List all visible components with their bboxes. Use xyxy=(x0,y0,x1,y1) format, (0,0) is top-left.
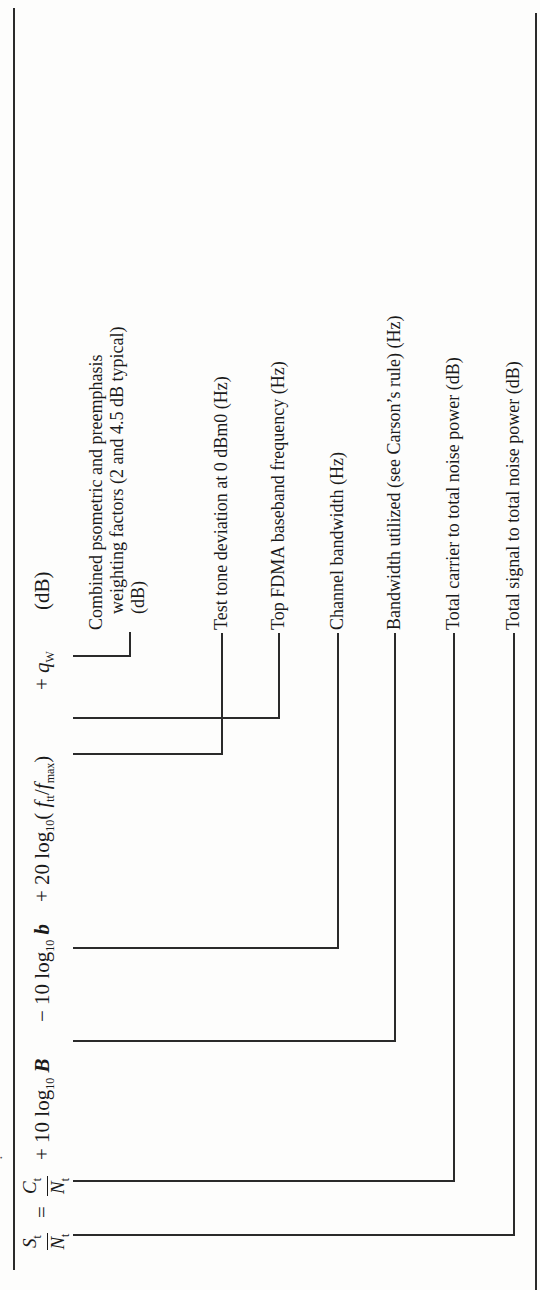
label-signal-to-noise: Total signal to total noise power (dB) xyxy=(503,361,524,630)
connector-carrier-noise-h xyxy=(453,633,455,1182)
connector-test-tone-v xyxy=(73,754,223,756)
connector-top-fdma-v xyxy=(73,718,280,720)
lhs-fraction: St Nt xyxy=(20,1233,75,1250)
term-bandwidth: + 10 log10 B xyxy=(22,1059,62,1160)
connector-channel-bw-h xyxy=(337,633,339,949)
connector-channel-bw-v xyxy=(73,948,339,950)
connector-signal-noise-v xyxy=(73,1235,515,1237)
cutoff-caption-fragment: · xyxy=(0,1155,10,1160)
label-weighting-factors: Combined psometric and preemphasis weigh… xyxy=(86,327,149,630)
connector-bw-utilized-h xyxy=(394,633,396,1042)
connector-top-fdma-h xyxy=(278,633,280,719)
term-frequency-ratio: + 20 log10( ftt/fmax) xyxy=(22,756,62,902)
connector-bw-utilized-v xyxy=(73,1041,396,1043)
connector-weighting-h xyxy=(129,632,131,657)
label-top-fdma-frequency: Top FDMA baseband frequency (Hz) xyxy=(268,361,289,630)
top-rule xyxy=(13,8,15,1270)
rotated-document-page: · St Nt = Ct Nt + 10 log10 B − 10 log10 … xyxy=(0,0,540,1290)
label-channel-bandwidth: Channel bandwidth (Hz) xyxy=(327,452,348,630)
term-weighting: + qW xyxy=(22,651,62,690)
connector-test-tone-h xyxy=(221,633,223,755)
carrier-noise-fraction: Ct Nt xyxy=(20,1176,75,1196)
bottom-rule xyxy=(535,13,537,1290)
connector-signal-noise-h xyxy=(513,633,515,1236)
label-carrier-to-noise: Total carrier to total noise power (dB) xyxy=(443,357,464,630)
connector-carrier-noise-v xyxy=(73,1181,455,1183)
term-channel-bandwidth: − 10 log10 b xyxy=(22,924,62,1022)
label-bandwidth-utilized: Bandwidth utilized (see Carson’s rule) (… xyxy=(384,316,405,630)
connector-weighting-v xyxy=(73,656,130,658)
equals-sign: = xyxy=(22,1206,62,1218)
equation-unit: (dB) xyxy=(22,572,62,611)
label-test-tone-deviation: Test tone deviation at 0 dBm0 (Hz) xyxy=(211,376,232,630)
